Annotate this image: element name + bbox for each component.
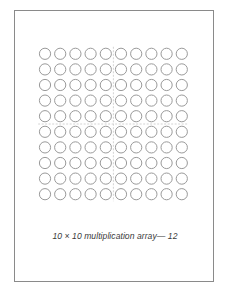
array-circle: [131, 157, 142, 168]
array-circle: [85, 79, 96, 90]
array-circle: [39, 189, 50, 200]
array-circle: [39, 126, 50, 137]
array-circle: [161, 157, 172, 168]
array-circle: [55, 95, 66, 106]
array-circle: [39, 64, 50, 75]
array-circle: [55, 48, 66, 59]
array-circle: [85, 48, 96, 59]
array-circle: [161, 142, 172, 153]
array-circle: [70, 95, 81, 106]
array-circle: [146, 95, 157, 106]
array-circle: [146, 189, 157, 200]
array-circle: [131, 95, 142, 106]
array-circle: [146, 64, 157, 75]
array-circle: [100, 64, 111, 75]
array-circle: [39, 95, 50, 106]
array-circle: [100, 95, 111, 106]
array-circle: [70, 173, 81, 184]
array-circle: [85, 142, 96, 153]
array-circle: [161, 126, 172, 137]
array-circle: [146, 142, 157, 153]
array-circle: [39, 48, 50, 59]
array-circle: [176, 95, 187, 106]
array-circle: [85, 189, 96, 200]
array-circle: [161, 79, 172, 90]
array-circle: [176, 126, 187, 137]
array-circle: [161, 111, 172, 122]
array-circle: [85, 64, 96, 75]
array-circle: [100, 79, 111, 90]
array-circle: [115, 126, 126, 137]
array-circle: [100, 189, 111, 200]
array-circle: [146, 111, 157, 122]
array-circle: [55, 79, 66, 90]
array-circle: [100, 142, 111, 153]
array-circle: [146, 126, 157, 137]
array-circle: [55, 111, 66, 122]
array-circle: [176, 48, 187, 59]
array-circle: [146, 157, 157, 168]
array-circle: [70, 142, 81, 153]
array-circle: [55, 173, 66, 184]
array-circle: [70, 111, 81, 122]
array-circle: [176, 79, 187, 90]
array-circle: [115, 189, 126, 200]
array-circle: [131, 173, 142, 184]
array-circle: [70, 126, 81, 137]
array-circle: [115, 173, 126, 184]
array-circle: [115, 95, 126, 106]
array-circle: [55, 157, 66, 168]
array-circle: [131, 142, 142, 153]
array-circle: [115, 157, 126, 168]
array-circle: [115, 111, 126, 122]
figure-caption: 10 × 10 multiplication array— 12: [14, 231, 216, 241]
array-circle: [100, 126, 111, 137]
array-circle: [70, 64, 81, 75]
array-circle: [115, 79, 126, 90]
array-circle: [70, 79, 81, 90]
array-circle: [70, 189, 81, 200]
array-circle: [176, 111, 187, 122]
array-circle: [70, 157, 81, 168]
array-circle: [161, 64, 172, 75]
array-circle: [39, 79, 50, 90]
array-circle: [85, 111, 96, 122]
array-circle: [176, 142, 187, 153]
array-circle: [131, 126, 142, 137]
array-circle: [100, 48, 111, 59]
array-circle: [100, 173, 111, 184]
array-circle: [161, 189, 172, 200]
array-circle: [39, 142, 50, 153]
array-circle: [70, 48, 81, 59]
array-circle: [176, 173, 187, 184]
array-circle: [161, 173, 172, 184]
array-circle: [85, 157, 96, 168]
array-circle: [131, 48, 142, 59]
array-circle: [85, 126, 96, 137]
array-circle: [55, 64, 66, 75]
array-circle: [146, 79, 157, 90]
array-circle: [39, 111, 50, 122]
array-circle: [39, 173, 50, 184]
quadrant-dividers: [38, 47, 188, 201]
array-circle: [100, 111, 111, 122]
array-circle: [55, 126, 66, 137]
array-circle: [176, 157, 187, 168]
array-circle: [55, 189, 66, 200]
array-circle: [100, 157, 111, 168]
array-circle: [176, 64, 187, 75]
array-circle: [146, 173, 157, 184]
array-circle: [115, 48, 126, 59]
array-circle: [131, 189, 142, 200]
array-circle: [161, 95, 172, 106]
array-circle: [85, 173, 96, 184]
array-circle: [131, 111, 142, 122]
array-circle: [176, 189, 187, 200]
array-circle: [131, 79, 142, 90]
array-circle: [146, 48, 157, 59]
array-circle: [55, 142, 66, 153]
array-circle: [131, 64, 142, 75]
array-circle: [39, 157, 50, 168]
array-circle: [85, 95, 96, 106]
array-circle: [115, 142, 126, 153]
